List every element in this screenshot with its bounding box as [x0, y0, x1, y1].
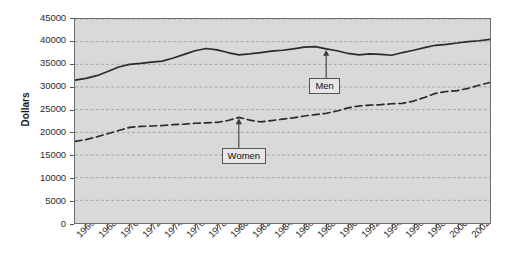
y-tick-mark: [70, 110, 74, 111]
y-tick-label: 5000: [14, 195, 66, 206]
x-tick-mark: [195, 224, 196, 229]
x-tick-mark: [261, 224, 262, 229]
y-tick-mark: [70, 41, 74, 42]
x-tick-mark: [370, 224, 371, 229]
y-tick-mark: [70, 87, 74, 88]
x-tick-mark: [326, 224, 327, 229]
y-tick-mark: [70, 201, 74, 202]
y-tick-label: 0: [14, 218, 66, 229]
x-tick-mark: [217, 224, 218, 229]
x-tick-mark: [107, 224, 108, 229]
x-tick-mark: [173, 224, 174, 229]
chart-container: Dollars 05000100001500020000250003000035…: [0, 0, 514, 271]
annotation-label-men: Men: [309, 78, 339, 94]
y-tick-label: 10000: [14, 172, 66, 183]
series-line-men: [75, 39, 490, 80]
y-tick-label: 20000: [14, 126, 66, 137]
x-tick-mark: [414, 224, 415, 229]
plot-svg: [75, 19, 490, 223]
y-tick-mark: [70, 64, 74, 65]
x-tick-mark: [151, 224, 152, 229]
x-tick-mark: [85, 224, 86, 229]
y-tick-label: 15000: [14, 149, 66, 160]
y-tick-label: 40000: [14, 34, 66, 45]
plot-area: [74, 18, 491, 224]
y-tick-mark: [70, 224, 74, 225]
x-tick-mark: [436, 224, 437, 229]
y-tick-label: 45000: [14, 12, 66, 23]
x-tick-mark: [239, 224, 240, 229]
x-tick-mark: [129, 224, 130, 229]
y-tick-mark: [70, 155, 74, 156]
annotation-label-women: Women: [222, 148, 267, 164]
x-tick-mark: [304, 224, 305, 229]
x-tick-mark: [458, 224, 459, 229]
y-tick-label: 35000: [14, 57, 66, 68]
y-tick-label: 30000: [14, 80, 66, 91]
x-tick-mark: [392, 224, 393, 229]
x-tick-mark: [348, 224, 349, 229]
y-tick-mark: [70, 178, 74, 179]
y-tick-mark: [70, 132, 74, 133]
series-lines: [75, 39, 490, 141]
y-tick-mark: [70, 18, 74, 19]
x-tick-mark: [283, 224, 284, 229]
y-tick-label: 25000: [14, 103, 66, 114]
x-tick-mark: [480, 224, 481, 229]
